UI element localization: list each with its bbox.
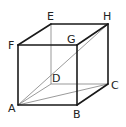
label-E: E: [47, 10, 54, 23]
label-F: F: [8, 39, 14, 52]
label-G: G: [67, 33, 76, 46]
label-D: D: [52, 72, 60, 85]
edge-GH: [77, 24, 108, 45]
label-H: H: [103, 10, 111, 23]
edge-AD: [18, 84, 51, 105]
edge-EF: [18, 24, 51, 45]
edge-BC: [77, 84, 108, 105]
label-A: A: [8, 102, 16, 115]
label-C: C: [111, 79, 119, 92]
cube-diagram: E H F G D C A B: [0, 0, 126, 127]
diagonal-AC: [18, 84, 108, 105]
label-B: B: [73, 108, 81, 121]
